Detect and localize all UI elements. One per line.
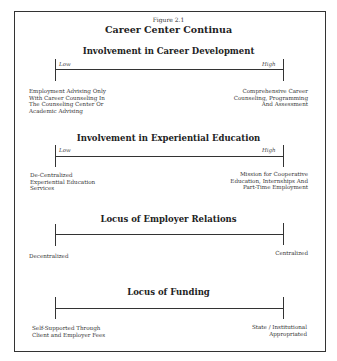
continuum-title-experiential-education: Involvement in Experiential Education bbox=[0, 133, 337, 143]
high-label: High bbox=[262, 61, 276, 67]
continuum-right-tick bbox=[283, 59, 284, 81]
low-label: Low bbox=[59, 61, 71, 67]
continuum-left-tick bbox=[55, 224, 56, 246]
continuum-title-employer-relations: Locus of Employer Relations bbox=[0, 214, 337, 224]
left-description: Decentralized bbox=[29, 253, 69, 260]
continuum-title-career-development: Involvement in Career Development bbox=[0, 46, 337, 56]
left-description: De-Centralized Experiential Education Se… bbox=[30, 172, 95, 192]
continuum-line bbox=[55, 234, 283, 235]
continuum-title-funding: Locus of Funding bbox=[0, 287, 337, 297]
right-description: Mission for Cooperative Education, Inter… bbox=[230, 171, 308, 191]
high-label: High bbox=[262, 147, 276, 153]
continuum-left-tick bbox=[55, 59, 56, 81]
right-description: Comprehensive Career Counseling, Program… bbox=[234, 88, 308, 108]
continuum-right-tick bbox=[283, 297, 284, 319]
figure-title: Career Center Continua bbox=[0, 24, 337, 35]
figure-label: Figure 2.1 bbox=[0, 16, 337, 23]
right-description: State / Institutional Appropriated bbox=[252, 324, 307, 337]
continuum-line bbox=[55, 308, 283, 309]
continuum-line bbox=[55, 69, 283, 70]
right-description: Centralized bbox=[275, 250, 308, 257]
low-label: Low bbox=[59, 147, 71, 153]
left-description: Self-Supported Through Client and Employ… bbox=[32, 325, 105, 338]
continuum-right-tick bbox=[283, 145, 284, 167]
continuum-right-tick bbox=[283, 223, 284, 245]
continuum-line bbox=[55, 156, 283, 157]
left-description: Employment Advising Only With Career Cou… bbox=[29, 88, 106, 114]
